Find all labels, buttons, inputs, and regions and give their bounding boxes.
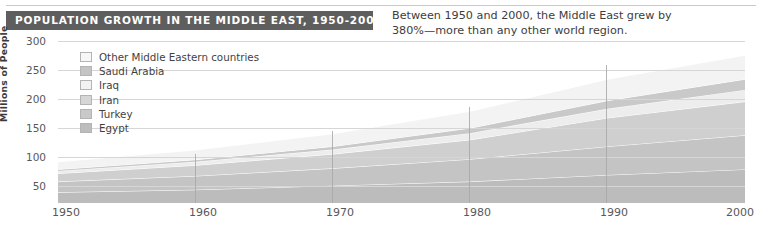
legend-item-other[interactable]: Other Middle Eastern countries — [80, 50, 310, 64]
x-tick-1980: 1980 — [463, 207, 491, 218]
gridline-300 — [58, 41, 745, 42]
legend-label-saudi-arabia: Saudi Arabia — [99, 66, 164, 76]
y-tick-300: 300 — [26, 36, 46, 47]
subtitle-line-2: 380%—more than any other world region. — [392, 24, 752, 39]
y-axis-tick-labels: 300 250 200 150 100 50 — [0, 41, 52, 203]
gridline-50 — [58, 186, 745, 187]
decade-tick-1960 — [195, 154, 196, 203]
subtitle-line-1: Between 1950 and 2000, the Middle East g… — [392, 9, 752, 24]
legend-swatch-icon-saudi-arabia — [80, 66, 92, 76]
page-title: POPULATION GROWTH IN THE MIDDLE EAST, 19… — [6, 15, 382, 26]
chart-subtitle: Between 1950 and 2000, the Middle East g… — [392, 9, 752, 38]
legend-swatch-icon-iraq — [80, 80, 92, 90]
y-tick-50: 50 — [33, 181, 46, 192]
y-tick-250: 250 — [26, 65, 46, 76]
gridline-100 — [58, 157, 745, 158]
x-tick-2000: 2000 — [726, 207, 754, 218]
x-tick-1990: 1990 — [600, 207, 628, 218]
legend-swatch-icon-egypt — [80, 123, 92, 133]
y-tick-200: 200 — [26, 94, 46, 105]
decade-tick-1980 — [469, 107, 470, 203]
decade-tick-1970 — [332, 131, 333, 203]
legend-label-iraq: Iraq — [99, 80, 119, 90]
legend-swatch-icon-iran — [80, 95, 92, 105]
legend-swatch-icon-other — [80, 52, 92, 62]
chart-figure: POPULATION GROWTH IN THE MIDDLE EAST, 19… — [0, 0, 763, 234]
x-tick-1960: 1960 — [189, 207, 217, 218]
y-tick-150: 150 — [26, 123, 46, 134]
chart-legend: Other Middle Eastern countries Saudi Ara… — [80, 50, 310, 135]
legend-label-turkey: Turkey — [99, 109, 133, 119]
top-divider-rule — [6, 5, 756, 6]
legend-item-saudi-arabia[interactable]: Saudi Arabia — [80, 64, 310, 78]
x-axis-baseline — [58, 202, 745, 203]
chart-title-banner: POPULATION GROWTH IN THE MIDDLE EAST, 19… — [6, 11, 373, 30]
legend-swatch-icon-turkey — [80, 109, 92, 119]
legend-label-egypt: Egypt — [99, 123, 129, 133]
legend-label-iran: Iran — [99, 95, 119, 105]
legend-label-other: Other Middle Eastern countries — [99, 52, 259, 62]
x-tick-1950: 1950 — [52, 207, 80, 218]
legend-item-turkey[interactable]: Turkey — [80, 107, 310, 121]
legend-item-iraq[interactable]: Iraq — [80, 78, 310, 92]
decade-tick-1990 — [606, 65, 607, 203]
y-tick-100: 100 — [26, 152, 46, 163]
x-axis-tick-labels: 1950 1960 1970 1980 1990 2000 — [0, 207, 763, 225]
x-tick-1970: 1970 — [326, 207, 354, 218]
legend-item-iran[interactable]: Iran — [80, 93, 310, 107]
legend-item-egypt[interactable]: Egypt — [80, 121, 310, 135]
